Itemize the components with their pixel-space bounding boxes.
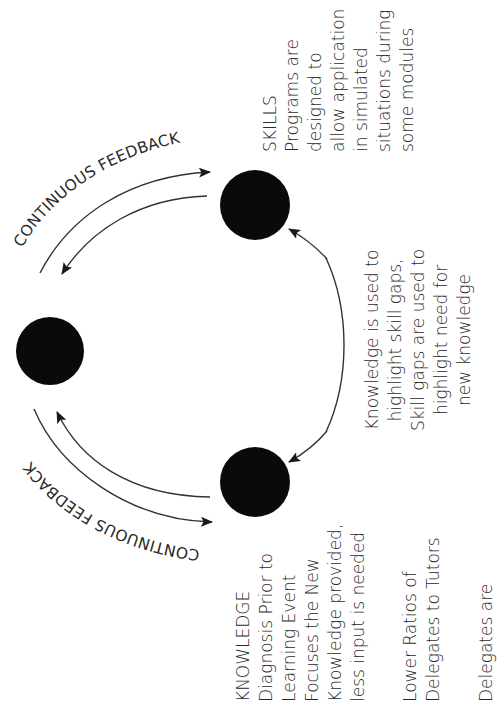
knowledge-text-block: KNOWLEDGE Diagnosis Prior to Learning Ev… (233, 524, 496, 702)
center-node (16, 317, 84, 385)
skills-title: SKILLS (260, 95, 280, 152)
bottom-feedback-label: CONTINUOUS FEEDBACK (19, 458, 200, 564)
link-text-block: Knowledge is used to highlight skill gap… (362, 249, 474, 431)
knowledge-line: Delegates are (476, 584, 496, 702)
link-to-skills (289, 229, 327, 259)
learning-cycle-diagram: CONTINUOUS FEEDBACK CONTINUOUS FEEDBACK … (0, 0, 497, 717)
knowledge-line: less input is needed (348, 532, 368, 702)
skills-line: Programs are (282, 39, 302, 152)
skills-line: situations during (374, 9, 394, 152)
diagram-canvas: CONTINUOUS FEEDBACK CONTINUOUS FEEDBACK … (0, 0, 497, 717)
skills-text-block: SKILLS Programs are designed to allow ap… (260, 9, 417, 152)
link-line: new knowledge (454, 274, 474, 406)
link-line: Knowledge is used to (362, 250, 382, 431)
skills-knowledge-link-arrow (326, 258, 344, 432)
knowledge-line: Learning Event (279, 575, 299, 702)
knowledge-line: Diagnosis Prior to (256, 553, 276, 702)
knowledge-node (220, 447, 290, 517)
top-feedback-label: CONTINUOUS FEEDBACK (10, 129, 182, 251)
knowledge-title: KNOWLEDGE (233, 591, 253, 702)
knowledge-line: Lower Ratios of (400, 571, 420, 702)
skills-node (220, 170, 290, 240)
link-line: highlight need for (431, 265, 451, 415)
skills-line: in simulated (351, 47, 371, 152)
skills-line: allow application (328, 9, 348, 152)
bottom-feedback-inner-arrow (57, 412, 210, 497)
knowledge-line: Knowledge provided, (325, 524, 345, 702)
knowledge-line: Focuses the New (302, 558, 322, 702)
knowledge-line: Delegates to Tutors (423, 537, 443, 702)
link-line: Skill gaps are used to (408, 249, 428, 431)
top-feedback-inner-arrow (62, 196, 207, 274)
link-to-knowledge (289, 431, 327, 462)
link-line: highlight skill gaps, (385, 259, 405, 422)
skills-line: designed to (305, 52, 325, 152)
skills-line: some modules (397, 28, 417, 152)
